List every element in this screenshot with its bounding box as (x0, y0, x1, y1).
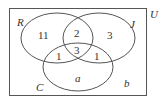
region-r-j-c: 3 (74, 44, 80, 56)
region-j-c-only: 1 (94, 50, 100, 62)
set-r-label: R (16, 16, 24, 28)
region-r-only: 11 (38, 29, 49, 41)
set-c-label: C (36, 81, 44, 93)
universe-label: U (150, 8, 159, 20)
region-r-j-only: 2 (74, 27, 80, 39)
region-r-c-only: 1 (56, 50, 62, 62)
venn-diagram: U R J C 11 2 3 3 1 1 a b (0, 0, 164, 105)
region-c-only: a (75, 72, 81, 84)
region-outside: b (124, 77, 130, 89)
region-j-only: 3 (107, 29, 113, 41)
set-j-label: J (130, 18, 136, 30)
